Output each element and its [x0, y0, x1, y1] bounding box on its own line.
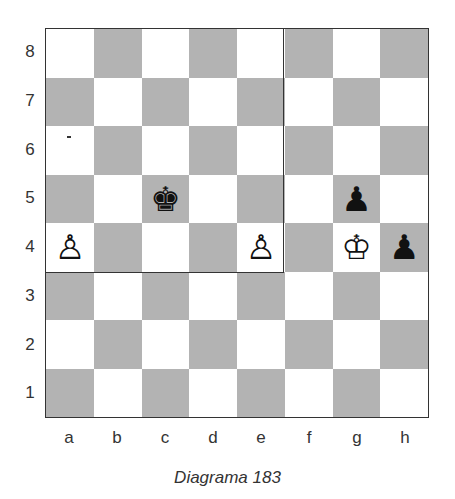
rank-label-8: 8 [22, 42, 38, 62]
square-b6 [94, 126, 142, 175]
square-b3 [94, 272, 142, 321]
square-h5 [380, 175, 428, 224]
square-c7 [142, 78, 190, 127]
square-f3 [285, 272, 333, 321]
file-label-h: h [381, 428, 429, 448]
square-c1 [142, 369, 190, 418]
square-h8 [380, 29, 428, 78]
square-f5 [285, 175, 333, 224]
square-b8 [94, 29, 142, 78]
square-b4 [94, 223, 142, 272]
square-g4: ♔ [333, 223, 381, 272]
black-king-icon: ♚ [150, 182, 180, 216]
square-g1 [333, 369, 381, 418]
chess-board: ♚♟♙♙♔♟ [45, 28, 429, 418]
square-d1 [189, 369, 237, 418]
rank-label-1: 1 [22, 383, 38, 403]
white-pawn-icon: ♙ [246, 230, 276, 264]
square-a4: ♙ [46, 223, 94, 272]
mark-dot [67, 136, 71, 138]
square-c3 [142, 272, 190, 321]
square-a7 [46, 78, 94, 127]
file-label-e: e [237, 428, 285, 448]
square-g2 [333, 320, 381, 369]
square-e6 [237, 126, 285, 175]
rank-label-2: 2 [22, 335, 38, 355]
square-f4 [285, 223, 333, 272]
square-e1 [237, 369, 285, 418]
square-c4 [142, 223, 190, 272]
white-pawn-icon: ♙ [55, 230, 85, 264]
square-d4 [189, 223, 237, 272]
file-label-a: a [45, 428, 93, 448]
square-h6 [380, 126, 428, 175]
square-g7 [333, 78, 381, 127]
file-label-d: d [189, 428, 237, 448]
file-label-f: f [285, 428, 333, 448]
square-c5: ♚ [142, 175, 190, 224]
square-f6 [285, 126, 333, 175]
square-h2 [380, 320, 428, 369]
file-label-g: g [333, 428, 381, 448]
black-pawn-icon: ♟ [389, 230, 419, 264]
square-d8 [189, 29, 237, 78]
square-b2 [94, 320, 142, 369]
square-a5 [46, 175, 94, 224]
square-c2 [142, 320, 190, 369]
square-h7 [380, 78, 428, 127]
square-e5 [237, 175, 285, 224]
square-h1 [380, 369, 428, 418]
square-a8 [46, 29, 94, 78]
square-e2 [237, 320, 285, 369]
square-f1 [285, 369, 333, 418]
square-d2 [189, 320, 237, 369]
square-e4: ♙ [237, 223, 285, 272]
square-g8 [333, 29, 381, 78]
square-h4: ♟ [380, 223, 428, 272]
white-king-icon: ♔ [341, 230, 371, 264]
square-d3 [189, 272, 237, 321]
square-f7 [285, 78, 333, 127]
rank-label-3: 3 [22, 286, 38, 306]
square-b7 [94, 78, 142, 127]
square-a3 [46, 272, 94, 321]
square-g5: ♟ [333, 175, 381, 224]
diagram-caption: Diagrama 183 [0, 468, 455, 488]
square-h3 [380, 272, 428, 321]
file-label-c: c [141, 428, 189, 448]
rank-label-4: 4 [22, 237, 38, 257]
black-pawn-icon: ♟ [341, 182, 371, 216]
square-d7 [189, 78, 237, 127]
square-e8 [237, 29, 285, 78]
rank-label-5: 5 [22, 188, 38, 208]
square-b5 [94, 175, 142, 224]
square-c6 [142, 126, 190, 175]
square-g6 [333, 126, 381, 175]
square-c8 [142, 29, 190, 78]
square-d6 [189, 126, 237, 175]
rank-label-7: 7 [22, 91, 38, 111]
square-e3 [237, 272, 285, 321]
square-f8 [285, 29, 333, 78]
square-e7 [237, 78, 285, 127]
square-g3 [333, 272, 381, 321]
square-d5 [189, 175, 237, 224]
square-a6 [46, 126, 94, 175]
file-label-b: b [93, 428, 141, 448]
square-f2 [285, 320, 333, 369]
rank-label-6: 6 [22, 140, 38, 160]
square-a2 [46, 320, 94, 369]
square-b1 [94, 369, 142, 418]
square-a1 [46, 369, 94, 418]
